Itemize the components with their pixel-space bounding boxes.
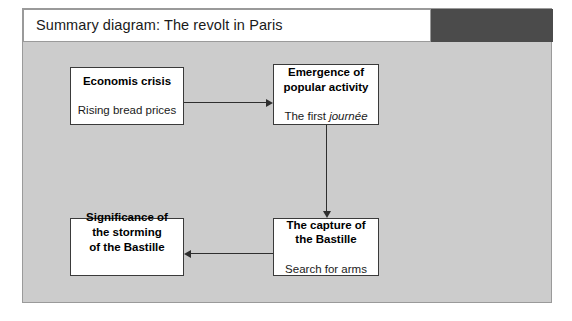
node-subtext-italic: journée <box>329 110 367 122</box>
arrow-shaft <box>184 102 266 103</box>
flowchart-node-popular-activity: Emergence of popular activity The first … <box>273 64 379 125</box>
flowchart-node-economic-crisis: Economis crisis Rising bread prices <box>70 67 184 125</box>
node-subtext: Rising bread prices <box>78 89 176 118</box>
node-heading: Significance of the storming of the Bast… <box>86 210 168 254</box>
summary-diagram-panel: Summary diagram: The revolt in Paris Eco… <box>22 8 552 303</box>
node-heading: Emergence of popular activity <box>284 65 369 94</box>
page-title: Summary diagram: The revolt in Paris <box>36 17 283 33</box>
panel-title-bar: Summary diagram: The revolt in Paris <box>23 9 553 42</box>
arrow-shaft <box>326 125 327 211</box>
panel-title-accent-block <box>431 9 553 42</box>
flowchart-diagram: Economis crisis Rising bread prices Emer… <box>23 42 553 304</box>
node-subtext-plain: The first <box>284 110 329 122</box>
panel-title-plate: Summary diagram: The revolt in Paris <box>23 9 431 42</box>
flowchart-node-significance-of-the-storming: Significance of the storming of the Bast… <box>70 218 184 276</box>
node-subtext: Search for arms <box>285 247 367 276</box>
arrowhead-right-icon <box>266 99 273 107</box>
arrowhead-left-icon <box>184 250 191 258</box>
node-subtext-plain: Search for arms <box>285 263 367 275</box>
node-heading: The capture of the Bastille <box>286 218 365 247</box>
arrow-shaft <box>191 253 273 254</box>
flowchart-node-capture-of-the-bastille: The capture of the Bastille Search for a… <box>273 218 379 276</box>
node-heading: Economis crisis <box>83 74 171 89</box>
node-subtext-plain: Rising bread prices <box>78 104 176 116</box>
arrowhead-down-icon <box>323 211 331 218</box>
node-subtext: The first journée <box>284 95 367 124</box>
